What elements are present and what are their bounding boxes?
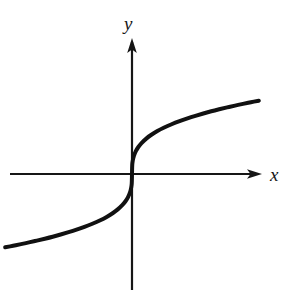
graph-figure: y x (0, 0, 295, 298)
plot-canvas (0, 0, 295, 298)
y-axis-label: y (124, 14, 132, 33)
x-axis-label: x (270, 165, 278, 184)
